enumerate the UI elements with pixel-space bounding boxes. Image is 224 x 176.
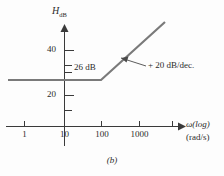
x-axis-ticks xyxy=(25,121,173,127)
figure-caption: (b) xyxy=(0,155,224,165)
plateau-value-annotation: 26 dB xyxy=(74,62,96,72)
y-axis-title: HdB xyxy=(52,5,67,18)
x-tick-label-100: 100 xyxy=(88,129,116,139)
bode-magnitude-plot-figure: HdB 40 20 26 dB + 20 dB/dec. 1 10 100 10… xyxy=(0,0,224,176)
x-axis-title-line2: (rad/s) xyxy=(186,132,210,142)
x-axis-title-line1: ω(log) xyxy=(186,119,210,129)
slope-annotation: + 20 dB/dec. xyxy=(148,60,194,70)
y-tick-label-40: 40 xyxy=(30,44,56,54)
x-tick-label-10: 10 xyxy=(52,129,77,139)
plot-canvas xyxy=(0,0,224,176)
x-tick-label-1000: 1000 xyxy=(123,129,156,139)
y-axis-title-subscript: dB xyxy=(59,11,67,18)
y-axis xyxy=(61,24,69,146)
slope-leader-line xyxy=(121,57,146,67)
x-tick-label-1: 1 xyxy=(12,129,37,139)
y-tick-label-20: 20 xyxy=(30,89,56,99)
